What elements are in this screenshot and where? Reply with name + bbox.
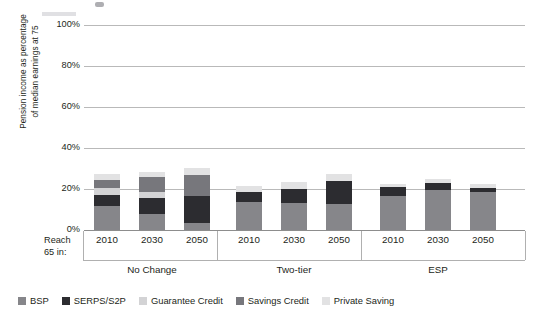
y-tick-label-20: 20%: [40, 184, 80, 193]
chart-legend: BSPSERPS/S2PGuarantee CreditSavings Cred…: [18, 295, 407, 306]
bar-2010-no-change: [94, 174, 120, 230]
legend-label: Savings Credit: [248, 295, 309, 306]
y-tick-label-60: 60%: [40, 102, 80, 111]
x-tick-label-3: 2010: [230, 234, 268, 246]
bar-segment-serps-s2p: [380, 187, 406, 196]
x-tick-label-1: 2030: [133, 234, 171, 246]
legend-label: Guarantee Credit: [151, 295, 223, 306]
bar-2030-esp: [425, 179, 451, 230]
axis-prefix-line-2: 65 in:: [44, 246, 71, 258]
legend-swatch-icon: [139, 297, 147, 305]
bar-segment-serps-s2p: [139, 198, 165, 213]
x-tick-label-8: 2050: [464, 234, 502, 246]
gridline-100: [84, 25, 525, 26]
bar-segment-bsp: [470, 192, 496, 230]
legend-item-serps-s2p[interactable]: SERPS/S2P: [62, 295, 126, 306]
y-axis-title: Pension income as percentage of median e…: [18, 0, 41, 167]
bar-segment-savings-credit: [94, 180, 120, 188]
group-separator-1: [217, 231, 218, 260]
legend-swatch-icon: [236, 297, 244, 305]
y-tick-label-0: 0%: [40, 225, 80, 234]
y-tick-label-80: 80%: [40, 61, 80, 70]
x-tick-label-0: 2010: [88, 234, 126, 246]
bar-segment-savings-credit: [184, 175, 210, 197]
bar-segment-bsp: [425, 190, 451, 230]
y-axis-tick-labels: 0%20%40%60%80%100%: [40, 25, 80, 230]
bar-segment-serps-s2p: [326, 181, 352, 205]
bar-segment-bsp: [380, 196, 406, 230]
x-tick-label-6: 2010: [374, 234, 412, 246]
y-axis-title-line-1: Pension income as percentage: [18, 0, 30, 167]
bar-2050-no-change: [184, 168, 210, 231]
bar-segment-bsp: [184, 223, 210, 230]
legend-label: Private Saving: [334, 295, 394, 306]
legend-item-bsp[interactable]: BSP: [18, 295, 49, 306]
legend-swatch-icon: [62, 297, 70, 305]
group-label-esp: ESP: [383, 264, 493, 276]
gridline-60: [84, 107, 525, 108]
legend-label: SERPS/S2P: [74, 295, 126, 306]
x-tick-label-4: 2030: [275, 234, 313, 246]
x-tick-label-5: 2050: [320, 234, 358, 246]
bar-segment-serps-s2p: [184, 196, 210, 223]
legend-item-guarantee-credit[interactable]: Guarantee Credit: [139, 295, 223, 306]
y-tick-label-100: 100%: [40, 20, 80, 29]
bar-segment-bsp: [139, 214, 165, 230]
bar-2050-two-tier: [326, 174, 352, 230]
x-axis-line: [84, 230, 525, 231]
gridline-40: [84, 148, 525, 149]
bar-segment-serps-s2p: [281, 189, 307, 203]
bar-2030-no-change: [139, 172, 165, 230]
legend-swatch-icon: [322, 297, 330, 305]
bar-segment-private-saving: [326, 174, 352, 181]
scan-artifact: [95, 2, 104, 7]
legend-item-private-saving[interactable]: Private Saving: [322, 295, 394, 306]
legend-label: BSP: [30, 295, 49, 306]
legend-swatch-icon: [18, 297, 26, 305]
stacked-bar-chart: Pension income as percentage of median e…: [0, 0, 539, 324]
group-separator-0: [83, 231, 84, 260]
bar-2010-esp: [380, 184, 406, 230]
bar-2030-two-tier: [281, 182, 307, 230]
bar-segment-bsp: [236, 202, 262, 230]
y-tick-label-40: 40%: [40, 143, 80, 152]
bar-2050-esp: [470, 184, 496, 230]
x-tick-label-7: 2030: [419, 234, 457, 246]
group-separator-3: [525, 231, 526, 260]
bar-segment-private-saving: [184, 168, 210, 175]
gridline-80: [84, 66, 525, 67]
bar-2010-two-tier: [236, 186, 262, 230]
bar-segment-guarantee-credit: [94, 188, 120, 195]
legend-item-savings-credit[interactable]: Savings Credit: [236, 295, 309, 306]
scan-artifact-2: [42, 12, 76, 16]
bar-segment-bsp: [326, 204, 352, 230]
y-axis-title-line-2: of median earnings at 75: [29, 0, 41, 167]
bar-segment-serps-s2p: [236, 192, 262, 202]
bar-segment-bsp: [94, 206, 120, 230]
bar-segment-serps-s2p: [94, 195, 120, 206]
plot-area: [84, 25, 525, 230]
axis-prefix-line-1: Reach: [44, 234, 71, 246]
group-separator-2: [361, 231, 362, 260]
bar-segment-private-saving: [281, 182, 307, 189]
category-row-underline: [83, 260, 525, 261]
bar-segment-savings-credit: [139, 177, 165, 192]
axis-prefix-label: Reach 65 in:: [44, 234, 71, 258]
bar-segment-bsp: [281, 203, 307, 230]
bar-segment-serps-s2p: [425, 183, 451, 190]
x-tick-label-2: 2050: [178, 234, 216, 246]
group-label-two-tier: Two-tier: [239, 264, 349, 276]
group-label-no-change: No Change: [97, 264, 207, 276]
